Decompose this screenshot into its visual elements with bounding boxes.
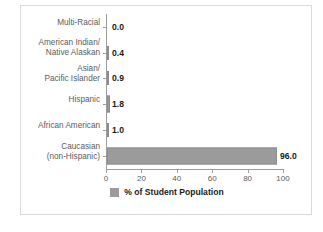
category-label-african-american: African American [38,121,100,131]
category-label-caucasian-non-hispanic: Caucasian (non-Hispanic) [47,142,100,161]
category-label-asian-pacific-islander: Asian/ Pacific Islander [44,64,100,83]
bar-value-label: 0.9 [112,73,124,83]
category-label-line: (non-Hispanic) [47,152,100,162]
bar-hispanic[interactable] [107,96,110,113]
chart-frame: Multi-Racial American Indian/ Native Ala… [20,5,312,215]
bar-value-label: 1.0 [112,125,124,135]
x-axis-tick [177,169,178,173]
bar-value-label: 0.0 [112,22,124,32]
bar-asian-pacific-islander[interactable] [107,71,109,85]
bars-area: 0.0 0.4 0.9 1.8 1.0 [106,14,284,169]
x-axis-tick-label: 80 [243,174,252,183]
category-axis-labels: Multi-Racial American Indian/ Native Ala… [21,14,104,169]
bar-caucasian-non-hispanic[interactable] [107,147,277,164]
bar-american-indian-native-alaskan[interactable] [107,46,109,60]
category-label-line: American Indian/ [39,38,100,48]
legend-label: % of Student Population [124,187,223,197]
category-label-hispanic: Hispanic [69,95,100,105]
category-label-multi-racial: Multi-Racial [57,18,100,28]
x-axis-tick-label: 0 [104,174,108,183]
value-axis-line: 0 20 40 60 80 100 [106,169,284,170]
x-axis-tick-label: 100 [276,174,289,183]
category-label-line: African American [38,121,100,131]
category-label-american-indian-native-alaskan: American Indian/ Native Alaskan [39,38,100,57]
category-label-line: Hispanic [69,95,100,105]
category-label-line: Pacific Islander [44,74,100,84]
x-axis-tick [141,169,142,173]
x-axis-tick [212,169,213,173]
category-label-line: Asian/ [44,64,100,74]
chart-legend: % of Student Population [21,187,313,197]
category-label-line: Multi-Racial [57,18,100,28]
x-axis-tick-label: 60 [208,174,217,183]
chart-plot-area: Multi-Racial American Indian/ Native Ala… [21,6,313,216]
x-axis-tick [248,169,249,173]
category-label-line: Caucasian [47,142,100,152]
category-label-line: Native Alaskan [39,48,100,58]
bar-row: 0.4 [107,40,284,66]
x-axis-tick [283,169,284,173]
x-axis-tick-label: 40 [172,174,181,183]
axis-tick [103,27,107,28]
bar-row: 96.0 [107,143,284,169]
bar-row: 1.8 [107,91,284,117]
bar-value-label: 0.4 [112,48,124,58]
bar-value-label: 1.8 [112,99,124,109]
bar-row: 0.9 [107,66,284,92]
x-axis-tick-label: 20 [137,174,146,183]
bar-row: 0.0 [107,14,284,40]
bar-row: 1.0 [107,117,284,143]
x-axis-tick [106,169,107,173]
bar-african-american[interactable] [107,123,109,137]
legend-swatch-icon [110,188,119,197]
bar-value-label: 96.0 [280,151,297,161]
